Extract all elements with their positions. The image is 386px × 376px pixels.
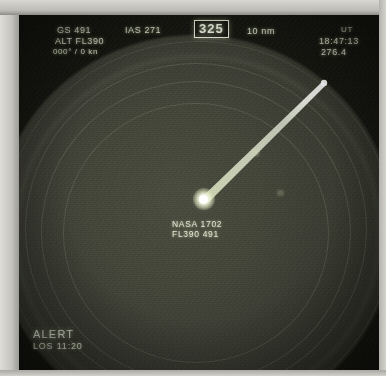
frame-margin-left (0, 0, 19, 376)
frame-margin-bottom (0, 370, 386, 376)
frame-margin-top (0, 0, 386, 15)
radar-photo-frame: GS 491 IAS 271 325 10 nm UT 18:47:13 276… (0, 0, 386, 376)
frame-margin-right (379, 0, 386, 376)
crt-grain-overlay-2 (19, 15, 379, 370)
radar-screen[interactable]: GS 491 IAS 271 325 10 nm UT 18:47:13 276… (19, 15, 379, 370)
